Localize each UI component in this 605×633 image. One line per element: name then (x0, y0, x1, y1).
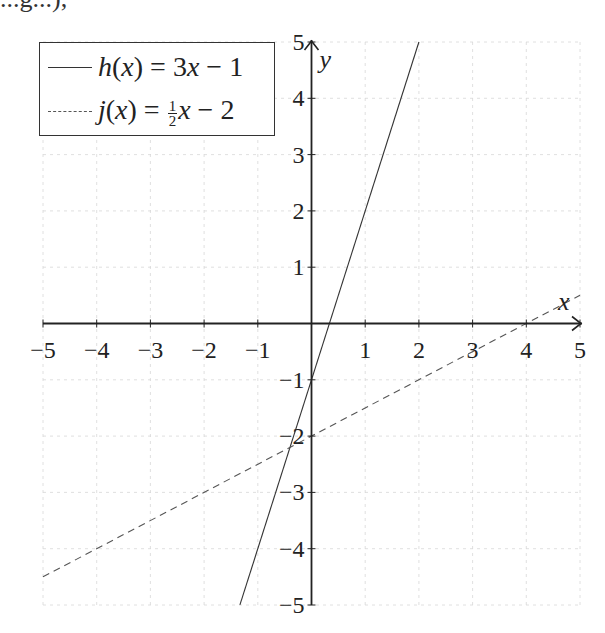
y-tick-label: 1 (293, 254, 305, 280)
y-tick-label: 5 (293, 29, 305, 55)
legend-const: 2 (220, 94, 234, 125)
legend-swatch-solid (48, 67, 92, 68)
y-tick-label: 4 (293, 85, 305, 111)
x-tick-label: −3 (138, 337, 164, 363)
legend-fraction: 12 (168, 99, 178, 128)
y-tick-label: −4 (279, 536, 305, 562)
x-tick-label: −2 (191, 337, 217, 363)
y-tick-label: −1 (279, 367, 305, 393)
legend-var: x (115, 94, 127, 125)
legend-const: 1 (229, 51, 243, 82)
y-tick-label: −2 (279, 423, 305, 449)
legend-label-j: j(x) = 12x − 2 (98, 94, 234, 127)
legend-fn-name: j (98, 94, 106, 125)
legend-var: x (121, 51, 133, 82)
y-tick-label: 3 (293, 142, 305, 168)
legend-swatch-dashed (48, 111, 92, 112)
legend: h(x) = 3x − 1 j(x) = 12x − 2 (39, 42, 275, 136)
x-tick-label: −5 (30, 337, 56, 363)
legend-item-h: h(x) = 3x − 1 (40, 45, 274, 89)
x-axis-label: x (557, 287, 570, 316)
legend-coef: 3 (173, 51, 187, 82)
y-axis-label: y (317, 45, 332, 74)
fraction-denominator: 2 (168, 114, 178, 128)
x-tick-label: 2 (413, 337, 425, 363)
x-tick-label: 3 (467, 337, 479, 363)
y-tick-label: 2 (293, 198, 305, 224)
legend-label-h: h(x) = 3x − 1 (98, 51, 243, 83)
x-tick-label: −4 (84, 337, 110, 363)
x-tick-label: −1 (245, 337, 271, 363)
x-tick-label: 4 (520, 337, 532, 363)
x-tick-label: 5 (574, 337, 586, 363)
legend-var: x (187, 51, 199, 82)
legend-var: x (178, 94, 190, 125)
y-tick-label: −3 (279, 479, 305, 505)
y-tick-label: −5 (279, 592, 305, 618)
x-tick-label: 1 (359, 337, 371, 363)
legend-fn-name: h (98, 51, 112, 82)
fraction-numerator: 1 (168, 99, 178, 114)
legend-item-j: j(x) = 12x − 2 (40, 89, 274, 133)
